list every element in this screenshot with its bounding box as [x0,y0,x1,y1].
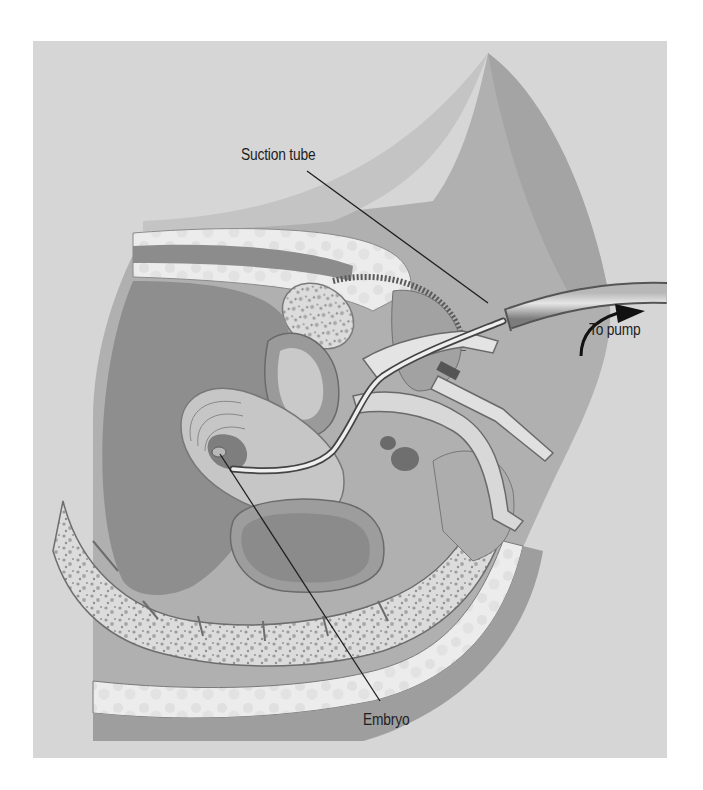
suction-tube-label: Suction tube [241,146,315,164]
embryo-shape [212,447,226,457]
to-pump-label: To pump [589,321,641,339]
embryo-label: Embryo [363,711,409,729]
anatomy-illustration [33,41,667,758]
illustration-panel: Suction tube To pump Embryo [33,41,667,758]
